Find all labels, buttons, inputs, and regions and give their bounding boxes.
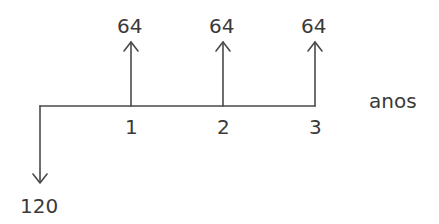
period-label-2: 2	[217, 117, 230, 137]
period-label-1: 1	[125, 117, 138, 137]
period-label-3: 3	[309, 117, 322, 137]
axis-unit-label: anos	[369, 91, 417, 111]
inflow-value-3: 64	[301, 16, 326, 36]
outflow-value: 120	[20, 196, 58, 216]
inflow-value-2: 64	[209, 16, 234, 36]
inflow-value-1: 64	[117, 16, 142, 36]
